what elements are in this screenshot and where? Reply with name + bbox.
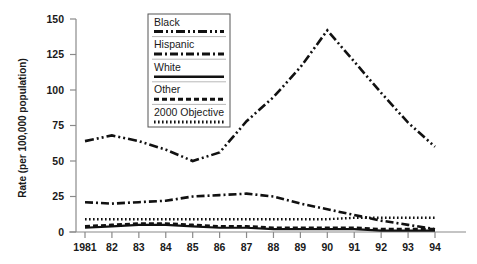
x-tick-label: 90 — [321, 241, 333, 253]
x-tick-label: 83 — [133, 241, 145, 253]
x-tick-label: 86 — [214, 241, 226, 253]
y-tick-label: 125 — [46, 48, 64, 60]
chart-container: Rate (per 100,000 population) 0255075100… — [0, 0, 477, 264]
x-tick-label: 93 — [402, 241, 414, 253]
x-tick-label: 85 — [187, 241, 199, 253]
x-tick-label: 87 — [241, 241, 253, 253]
x-tick-label: 88 — [268, 241, 280, 253]
x-axis-ticks: 198182838485868788899091929394 — [73, 232, 441, 253]
legend-label-white: White — [154, 61, 181, 73]
series-line-2000-objective — [85, 218, 435, 219]
y-axis-title-text: Rate (per 100,000 population) — [17, 58, 28, 197]
x-tick-label: 84 — [160, 241, 172, 253]
legend-label-other: Other — [154, 83, 181, 95]
y-tick-label: 150 — [46, 13, 64, 25]
chart-legend: BlackHispanicWhiteOther2000 Objective — [148, 14, 230, 127]
legend-label-black: Black — [154, 16, 180, 28]
x-tick-label: 1981 — [73, 241, 97, 253]
x-tick-label: 82 — [106, 241, 118, 253]
legend-label-2000-objective: 2000 Objective — [154, 106, 224, 118]
y-axis-title: Rate (per 100,000 population) — [17, 58, 28, 197]
x-tick-label: 89 — [295, 241, 307, 253]
y-tick-label: 100 — [46, 84, 64, 96]
y-tick-label: 75 — [52, 119, 64, 131]
y-tick-label: 50 — [52, 155, 64, 167]
y-tick-label: 0 — [58, 226, 64, 238]
x-tick-label: 92 — [375, 241, 387, 253]
y-axis-ticks: 0255075100125150 — [46, 13, 76, 238]
x-tick-label: 91 — [348, 241, 360, 253]
series-line-black — [85, 30, 435, 161]
y-tick-label: 25 — [52, 190, 64, 202]
legend-label-hispanic: Hispanic — [154, 38, 194, 50]
series-layer — [85, 30, 435, 230]
x-tick-label: 94 — [429, 241, 441, 253]
line-chart: Rate (per 100,000 population) 0255075100… — [0, 0, 477, 264]
